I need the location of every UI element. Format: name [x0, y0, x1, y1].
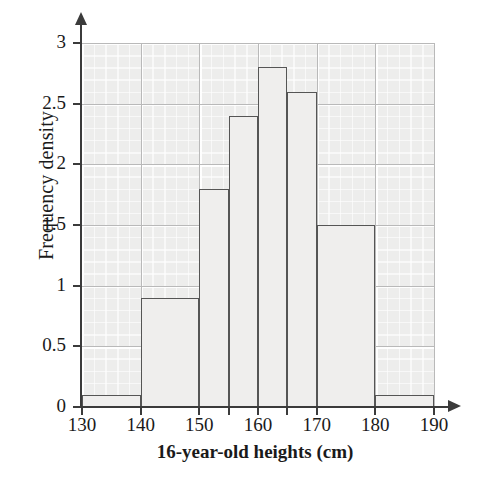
y-axis-title: Frequency density — [35, 56, 58, 316]
x-tick-label: 150 — [167, 414, 231, 436]
y-tick-mark — [73, 103, 82, 105]
histogram-bar — [199, 189, 228, 407]
histogram-bar — [287, 92, 316, 407]
y-axis-arrow-icon — [75, 12, 87, 25]
y-tick-mark — [73, 224, 82, 226]
plot-area — [82, 43, 434, 407]
x-tick-label: 140 — [109, 414, 173, 436]
histogram-figure: 00.511.522.53 130140150160170180190 Freq… — [0, 0, 479, 483]
x-tick-label: 160 — [226, 414, 290, 436]
y-axis-line — [80, 24, 82, 408]
histogram-bar — [141, 298, 200, 407]
x-axis-line — [80, 406, 451, 408]
y-tick-mark — [73, 345, 82, 347]
x-tick-label: 180 — [343, 414, 407, 436]
y-tick-mark — [73, 163, 82, 165]
x-axis-title: 16-year-old heights (cm) — [60, 441, 450, 463]
histogram-bar — [317, 225, 376, 407]
gridline-vertical — [434, 43, 435, 407]
x-tick-label: 190 — [402, 414, 466, 436]
histogram-bar — [229, 116, 258, 407]
y-tick-mark — [73, 285, 82, 287]
x-tick-label: 130 — [50, 414, 114, 436]
y-tick-label: 3 — [4, 31, 66, 53]
y-tick-label: 0.5 — [4, 334, 66, 356]
x-tick-label: 170 — [285, 414, 349, 436]
x-axis-arrow-icon — [448, 400, 461, 412]
histogram-bar — [258, 67, 287, 407]
y-tick-mark — [73, 42, 82, 44]
gridline-vertical — [375, 43, 376, 407]
